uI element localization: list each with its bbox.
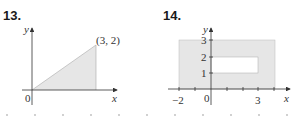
figure-14: 14. y x 0 −2 3 1 2 3 (163, 8, 290, 106)
y-axis-label: y (23, 23, 29, 35)
x-tick-label: 3 (255, 94, 261, 106)
origin-label: 0 (204, 92, 210, 104)
y-tick-label: 2 (201, 51, 207, 63)
figure-number: 13. (3, 8, 21, 23)
inner-hole (211, 57, 258, 73)
origin-label: 0 (25, 92, 31, 104)
x-tick-label: −2 (172, 94, 184, 106)
dotted-separator (6, 114, 288, 116)
y-tick-label: 3 (201, 34, 207, 46)
x-axis-label: x (283, 92, 289, 104)
y-tick-label: 1 (201, 67, 207, 79)
figure-13: 13. y x 0 (3, 2) (3, 8, 120, 105)
diagram-canvas: 13. y x 0 (3, 2) 14. y (0, 0, 298, 126)
x-axis-label: x (111, 92, 117, 104)
point-label: (3, 2) (96, 34, 120, 47)
figure-number: 14. (163, 8, 181, 23)
